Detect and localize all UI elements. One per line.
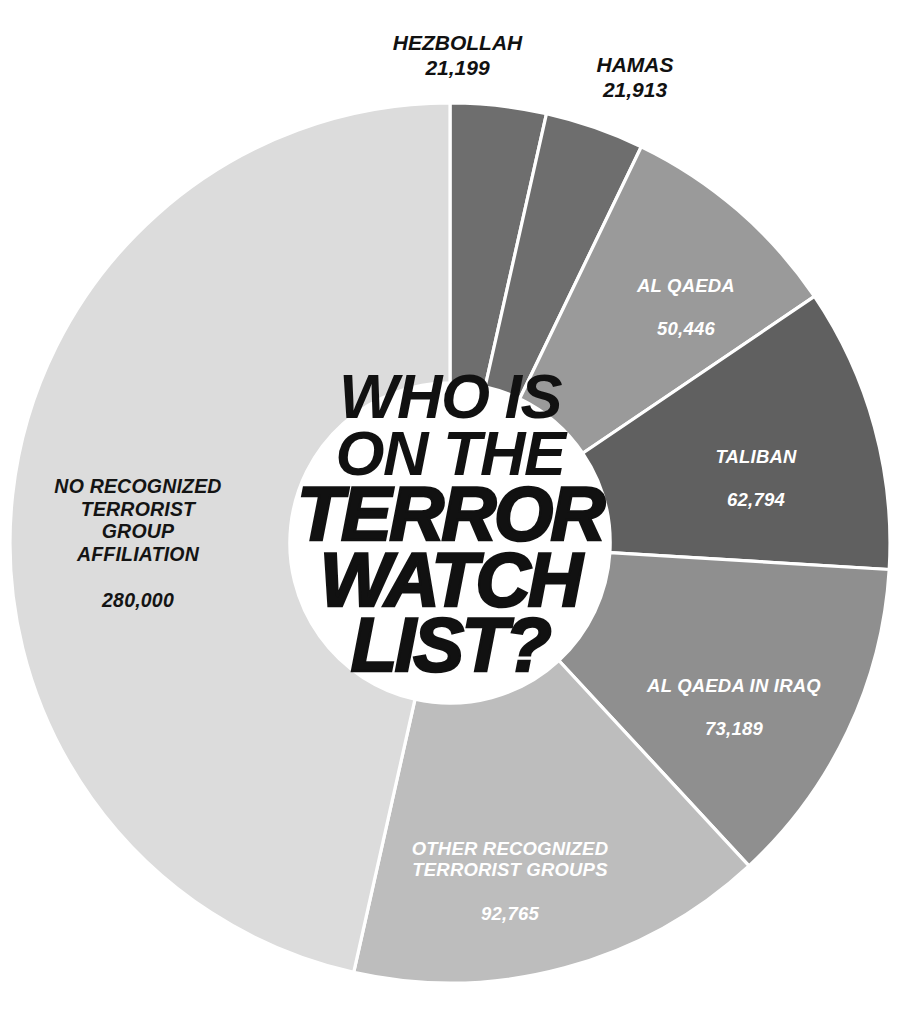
callout-label-hamas: HAMAS 21,913 xyxy=(555,52,715,102)
donut-chart xyxy=(0,0,900,1015)
callout-label-hezbollah: HEZBOLLAH 21,199 xyxy=(365,30,550,80)
terror-watch-list-infographic: HEZBOLLAH 21,199 HAMAS 21,913 AL QAEDA 5… xyxy=(0,0,900,1015)
callout-value-hezbollah: 21,199 xyxy=(365,55,550,80)
donut-center-hole xyxy=(290,383,610,703)
callout-name-hezbollah: HEZBOLLAH xyxy=(365,30,550,55)
callout-value-hamas: 21,913 xyxy=(555,77,715,102)
source-note xyxy=(0,1003,900,1015)
donut-slice-group xyxy=(10,103,890,983)
callout-name-hamas: HAMAS xyxy=(555,52,715,77)
